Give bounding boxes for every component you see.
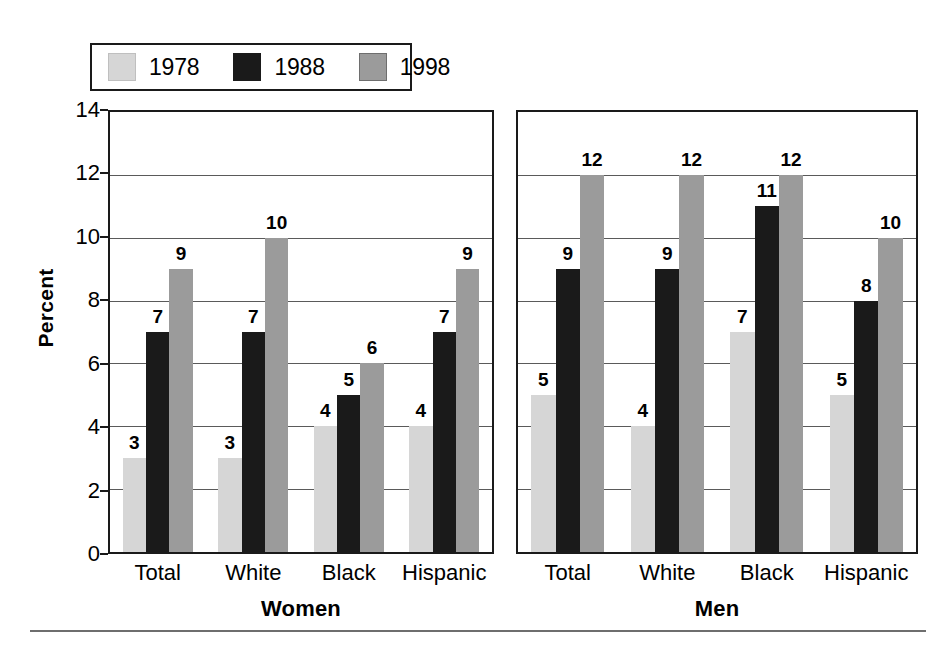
bar-men-total-1998 <box>580 175 604 552</box>
bar-women-black-1988 <box>337 395 360 552</box>
bar-men-white-1988 <box>655 269 679 552</box>
y-tick-label-12: 12 <box>60 162 100 184</box>
y-tick-mark-14 <box>100 109 108 111</box>
chart-figure: 1978 1988 1998 Percent 14121086420 37937… <box>0 0 952 648</box>
bar-men-hispanic-1998 <box>878 238 902 552</box>
y-tick-label-2: 2 <box>60 480 100 502</box>
legend-entry-1988: 1988 <box>233 45 324 89</box>
bar-value-men-black-1998: 12 <box>771 150 811 169</box>
bar-value-men-total-1998: 12 <box>572 150 612 169</box>
bar-men-total-1988 <box>556 269 580 552</box>
legend-label-1978: 1978 <box>149 56 199 79</box>
y-tick-label-10: 10 <box>60 226 100 248</box>
bar-men-total-1978 <box>531 395 555 552</box>
chart-legend: 1978 1988 1998 <box>90 43 412 91</box>
legend-entry-1998: 1998 <box>359 45 450 89</box>
y-tick-mark-2 <box>100 490 108 492</box>
bar-value-men-hispanic-1998: 10 <box>871 213 911 232</box>
legend-swatch-1998 <box>359 53 387 81</box>
category-label-men-hispanic: Hispanic <box>806 562 926 584</box>
legend-swatch-1988 <box>233 53 261 81</box>
bar-women-hispanic-1988 <box>433 332 456 552</box>
category-label-women-hispanic: Hispanic <box>384 562 504 584</box>
y-tick-mark-6 <box>100 363 108 365</box>
bar-value-women-black-1998: 6 <box>352 338 392 357</box>
gridline-12 <box>518 175 916 176</box>
bar-value-men-white-1998: 12 <box>672 150 712 169</box>
bar-value-women-hispanic-1998: 9 <box>448 244 488 263</box>
panel-men-plot: 59124912711125810 <box>516 110 918 554</box>
legend-swatch-1978 <box>108 53 136 81</box>
y-tick-label-0: 0 <box>60 543 100 565</box>
panel-women-plot: 3793710456479 <box>108 110 494 554</box>
y-axis-ticks: 14121086420 <box>52 0 100 648</box>
bar-value-women-total-1998: 9 <box>161 244 201 263</box>
bar-men-black-1998 <box>779 175 803 552</box>
bar-men-black-1988 <box>755 206 779 552</box>
panel-women-bars: 3793710456479 <box>110 112 492 552</box>
bottom-divider-rule <box>30 630 926 632</box>
panel-title-men: Men <box>587 596 847 622</box>
y-tick-mark-10 <box>100 236 108 238</box>
gridline-8 <box>110 301 492 302</box>
bar-men-white-1978 <box>631 426 655 552</box>
bar-women-total-1978 <box>123 458 146 552</box>
gridline-10 <box>518 238 916 239</box>
y-tick-label-8: 8 <box>60 289 100 311</box>
bar-men-white-1998 <box>679 175 703 552</box>
gridline-12 <box>110 175 492 176</box>
y-tick-mark-4 <box>100 426 108 428</box>
bar-men-hispanic-1978 <box>830 395 854 552</box>
bar-men-black-1978 <box>730 332 754 552</box>
legend-label-1998: 1998 <box>400 56 450 79</box>
bar-men-hispanic-1988 <box>854 301 878 552</box>
panel-title-women: Women <box>171 596 431 622</box>
bar-women-hispanic-1998 <box>456 269 479 552</box>
gridline-10 <box>110 238 492 239</box>
bar-women-total-1998 <box>169 269 192 552</box>
legend-entry-1978: 1978 <box>108 45 199 89</box>
bar-women-white-1998 <box>265 238 288 552</box>
y-tick-label-4: 4 <box>60 416 100 438</box>
bar-women-black-1998 <box>360 363 383 552</box>
bar-women-total-1988 <box>146 332 169 552</box>
y-tick-label-14: 14 <box>60 99 100 121</box>
y-tick-mark-0 <box>100 553 108 555</box>
bar-women-hispanic-1978 <box>409 426 432 552</box>
bar-women-white-1978 <box>218 458 241 552</box>
y-tick-mark-8 <box>100 299 108 301</box>
legend-label-1988: 1988 <box>274 56 324 79</box>
y-tick-mark-12 <box>100 172 108 174</box>
bar-women-white-1988 <box>242 332 265 552</box>
y-tick-label-6: 6 <box>60 353 100 375</box>
bar-women-black-1978 <box>314 426 337 552</box>
panel-men-bars: 59124912711125810 <box>518 112 916 552</box>
bar-value-women-white-1998: 10 <box>257 213 297 232</box>
